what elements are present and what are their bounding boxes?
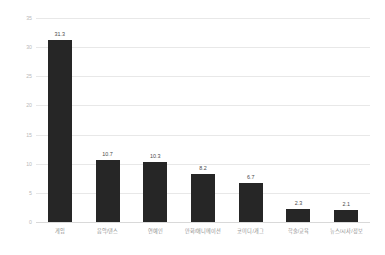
x-axis-tick-label: 뉴스/시사/정보: [315, 227, 377, 235]
y-axis-tick-label: 25: [2, 73, 32, 79]
y-axis-tick-label: 15: [2, 132, 32, 138]
bar-value-label: 8.2: [199, 165, 207, 172]
bar-group: 2.3: [276, 18, 320, 222]
y-axis-tick-label: 35: [2, 15, 32, 21]
bar[interactable]: [143, 162, 167, 222]
y-axis-tick-label: 30: [2, 44, 32, 50]
bar-value-label: 6.7: [247, 174, 255, 181]
y-axis-tick-label: 5: [2, 190, 32, 196]
bar[interactable]: [334, 210, 358, 222]
bar[interactable]: [239, 183, 263, 222]
plot-area: 3530252015105031.310.710.38.26.72.32.1: [36, 18, 370, 222]
gridline: [36, 222, 370, 223]
bar-group: 2.1: [324, 18, 368, 222]
bar-value-label: 2.1: [342, 201, 350, 208]
bar[interactable]: [191, 174, 215, 222]
bar-group: 8.2: [181, 18, 225, 222]
bar[interactable]: [286, 209, 310, 222]
bar-group: 10.7: [86, 18, 130, 222]
bar-value-label: 31.3: [55, 31, 66, 38]
bar-group: 31.3: [38, 18, 82, 222]
bar-value-label: 2.3: [295, 200, 303, 207]
y-axis-tick-label: 10: [2, 161, 32, 167]
y-axis-tick-label: 0: [2, 219, 32, 225]
bar-value-label: 10.3: [150, 153, 161, 160]
bar-group: 10.3: [133, 18, 177, 222]
chart-title: [0, 0, 385, 9]
bar-value-label: 10.7: [102, 151, 113, 158]
bar-group: 6.7: [229, 18, 273, 222]
y-axis-tick-label: 20: [2, 102, 32, 108]
bar[interactable]: [96, 160, 120, 222]
bar-chart: 3530252015105031.310.710.38.26.72.32.1 게…: [0, 0, 385, 255]
bar[interactable]: [48, 40, 72, 222]
